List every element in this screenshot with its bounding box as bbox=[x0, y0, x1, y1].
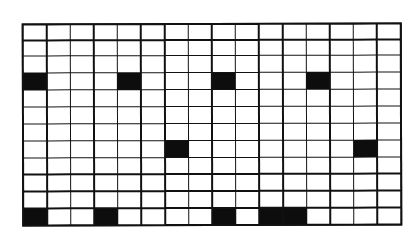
grid-cell bbox=[24, 125, 46, 140]
grid-cell bbox=[95, 192, 117, 207]
grid-cell bbox=[213, 124, 235, 139]
grid-cell bbox=[142, 209, 164, 224]
grid-cell bbox=[284, 158, 306, 173]
grid-cell bbox=[24, 192, 46, 207]
grid-cell bbox=[260, 175, 282, 190]
grid-cell bbox=[47, 25, 69, 39]
grid-cell bbox=[71, 158, 93, 173]
grid-cell bbox=[71, 90, 93, 105]
grid-cell bbox=[237, 209, 259, 224]
grid-cell bbox=[118, 158, 140, 173]
grid-cell bbox=[307, 107, 329, 122]
grid-cell bbox=[48, 91, 70, 106]
grid-cell bbox=[378, 107, 400, 122]
grid-cell bbox=[283, 73, 305, 88]
grid-cell bbox=[189, 41, 211, 55]
grid-cell bbox=[354, 25, 376, 39]
grid-cell bbox=[48, 209, 70, 224]
grid-cell bbox=[307, 175, 329, 190]
grid-cell bbox=[260, 90, 282, 105]
grid-cell bbox=[331, 90, 353, 105]
grid-cell bbox=[260, 40, 282, 54]
grid-cell bbox=[212, 25, 234, 39]
grid-cell bbox=[378, 90, 400, 105]
grid-cell bbox=[331, 192, 353, 207]
grid-cell bbox=[189, 141, 211, 156]
grid-cell bbox=[166, 209, 188, 224]
grid-cell bbox=[237, 192, 259, 207]
grid-cell bbox=[236, 175, 258, 190]
grid-cell bbox=[118, 41, 140, 55]
grid-cell bbox=[142, 56, 164, 71]
grid-cell bbox=[71, 56, 93, 71]
grid-cell-filled bbox=[213, 73, 235, 88]
grid-cell bbox=[378, 40, 400, 54]
grid-cell bbox=[307, 90, 329, 105]
grid-cell bbox=[354, 40, 376, 54]
grid-cell bbox=[236, 25, 258, 39]
grid-cell bbox=[48, 141, 70, 156]
grid-cell bbox=[355, 209, 377, 224]
grid-cell bbox=[118, 25, 140, 39]
grid-cell bbox=[47, 74, 69, 89]
grid-cell bbox=[142, 175, 164, 190]
grid-cell bbox=[307, 56, 329, 71]
grid-cell bbox=[236, 158, 258, 173]
grid-cell bbox=[95, 141, 117, 156]
grid-cell bbox=[24, 91, 46, 106]
grid-cell bbox=[354, 107, 376, 122]
grid-cell bbox=[142, 25, 164, 39]
grid-cell bbox=[378, 124, 400, 139]
grid-cell bbox=[236, 141, 258, 156]
grid-cell bbox=[47, 57, 69, 72]
grid-cell bbox=[236, 124, 258, 139]
grid-cell bbox=[331, 175, 353, 190]
grid-cell bbox=[354, 90, 376, 105]
grid-cell bbox=[260, 56, 282, 71]
grid-cell bbox=[189, 175, 211, 190]
grid-cell bbox=[378, 192, 400, 207]
grid-cell bbox=[189, 158, 211, 173]
grid-cell bbox=[71, 141, 93, 156]
grid-cell bbox=[71, 107, 93, 122]
grid-cell bbox=[118, 124, 140, 139]
grid-cell bbox=[24, 41, 46, 55]
grid-cell bbox=[283, 56, 305, 71]
grid-cell bbox=[24, 159, 46, 174]
grid-cell bbox=[24, 25, 46, 39]
grid-cell bbox=[95, 41, 117, 55]
grid-cell bbox=[378, 25, 400, 39]
grid-cell bbox=[71, 192, 93, 207]
grid-cell bbox=[48, 108, 70, 123]
grid-cell bbox=[189, 25, 211, 39]
grid-cell-filled bbox=[354, 141, 376, 156]
grid-cell bbox=[378, 158, 400, 173]
grid-cell bbox=[283, 107, 305, 122]
grid-cell-filled bbox=[166, 141, 188, 156]
grid-cell bbox=[260, 141, 282, 156]
grid-cell bbox=[213, 158, 235, 173]
grid-cell bbox=[236, 107, 258, 122]
grid-cell bbox=[166, 175, 188, 190]
grid-cell bbox=[95, 175, 117, 190]
grid-cell bbox=[165, 41, 187, 55]
grid-cell bbox=[236, 56, 258, 71]
grid-cell bbox=[189, 73, 211, 88]
grid-cell bbox=[354, 56, 376, 71]
grid-cell bbox=[260, 73, 282, 88]
grid-cell bbox=[48, 124, 70, 139]
grid-cell bbox=[213, 56, 235, 71]
grid-cell bbox=[71, 209, 93, 224]
grid-cell bbox=[213, 107, 235, 122]
grid-cell bbox=[378, 56, 400, 71]
grid-cell bbox=[260, 158, 282, 173]
grid-cell bbox=[354, 192, 376, 207]
grid-cell bbox=[166, 158, 188, 173]
grid-cell bbox=[236, 90, 258, 105]
grid-cell bbox=[283, 25, 305, 39]
grid-cell bbox=[283, 40, 305, 54]
grid-cell bbox=[24, 142, 46, 157]
grid-cell bbox=[118, 90, 140, 105]
grid-cell bbox=[284, 124, 306, 139]
grid-cell-filled bbox=[24, 209, 46, 224]
